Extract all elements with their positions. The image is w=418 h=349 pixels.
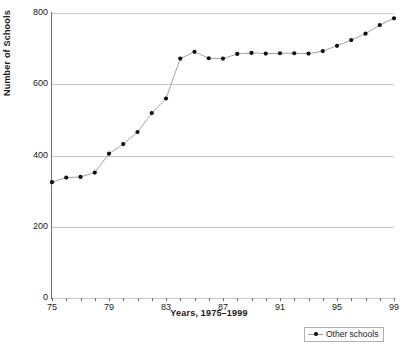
data-point-81 xyxy=(135,130,139,134)
x-tick-97 xyxy=(366,298,367,301)
x-tick-81 xyxy=(138,298,139,301)
data-point-89 xyxy=(249,51,253,55)
x-tick-77 xyxy=(81,298,82,301)
x-tick-87 xyxy=(223,298,224,301)
chart-figure: Number of Schools 0200400600800 75798387… xyxy=(0,0,418,349)
y-tick-label-800: 800 xyxy=(4,7,48,17)
data-point-97 xyxy=(363,32,367,36)
x-tick-91 xyxy=(280,298,281,301)
x-tick-89 xyxy=(252,298,253,301)
x-tick-76 xyxy=(66,298,67,301)
x-tick-99 xyxy=(394,298,395,301)
x-tick-83 xyxy=(166,298,167,301)
x-axis-title: Years, 1975–1999 xyxy=(0,308,418,318)
data-point-90 xyxy=(264,52,268,56)
x-tick-92 xyxy=(294,298,295,301)
y-tick-label-200: 200 xyxy=(4,221,48,231)
data-point-87 xyxy=(221,57,225,61)
y-tick-label-0: 0 xyxy=(4,292,48,302)
data-point-86 xyxy=(207,56,211,60)
x-tick-80 xyxy=(123,298,124,301)
y-tick-label-400: 400 xyxy=(4,150,48,160)
data-point-95 xyxy=(335,44,339,48)
data-point-80 xyxy=(121,142,125,146)
x-tick-85 xyxy=(195,298,196,301)
x-tick-98 xyxy=(380,298,381,301)
data-point-93 xyxy=(306,52,310,56)
data-point-88 xyxy=(235,52,239,56)
data-point-94 xyxy=(321,49,325,53)
x-tick-93 xyxy=(309,298,310,301)
data-point-98 xyxy=(378,23,382,27)
data-point-78 xyxy=(93,171,97,175)
x-tick-94 xyxy=(323,298,324,301)
x-tick-79 xyxy=(109,298,110,301)
data-point-96 xyxy=(349,38,353,42)
legend-marker-icon xyxy=(308,331,323,338)
data-point-99 xyxy=(392,16,396,20)
data-point-84 xyxy=(178,57,182,61)
x-tick-90 xyxy=(266,298,267,301)
data-point-82 xyxy=(150,111,154,115)
plot-area xyxy=(52,13,394,298)
x-tick-88 xyxy=(237,298,238,301)
x-tick-84 xyxy=(180,298,181,301)
y-tick-label-600: 600 xyxy=(4,78,48,88)
x-tick-95 xyxy=(337,298,338,301)
data-point-92 xyxy=(292,51,296,55)
x-tick-78 xyxy=(95,298,96,301)
x-tick-86 xyxy=(209,298,210,301)
series-line-other-schools xyxy=(52,18,394,182)
data-point-91 xyxy=(278,51,282,55)
data-point-83 xyxy=(164,96,168,100)
data-point-75 xyxy=(50,180,54,184)
data-point-85 xyxy=(192,50,196,54)
legend-label-other-schools: Other schools xyxy=(326,330,378,339)
series-layer xyxy=(50,16,396,184)
data-point-77 xyxy=(78,175,82,179)
chart-legend: Other schools xyxy=(304,327,384,342)
x-tick-75 xyxy=(52,298,53,301)
x-tick-82 xyxy=(152,298,153,301)
data-point-79 xyxy=(107,152,111,156)
data-point-76 xyxy=(64,175,68,179)
x-tick-96 xyxy=(351,298,352,301)
